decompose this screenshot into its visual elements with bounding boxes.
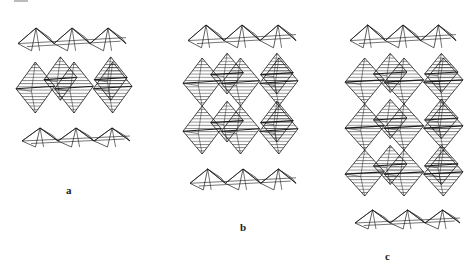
panel-label-a: a	[66, 185, 72, 196]
panel-label-c: c	[385, 251, 390, 262]
structure-figure	[0, 0, 474, 274]
panel-label-b: b	[240, 222, 246, 233]
